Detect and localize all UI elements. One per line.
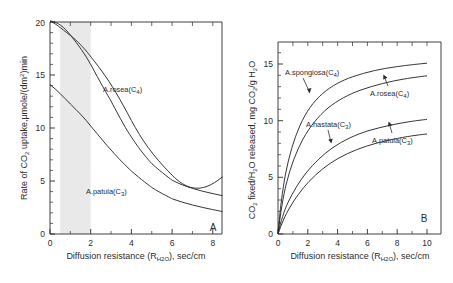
panel-b-curve-aspongiosa	[278, 63, 427, 234]
panel-b-label-aspongiosa: A.spongiosa(C4)	[285, 68, 339, 78]
panel-b-curve-arosea-b	[278, 76, 427, 234]
panel-a-xlabel: Diffusion resistance (RH2O), sec/cm	[66, 251, 205, 262]
panel-b-ylabel-p7: /g H	[247, 71, 257, 88]
panel-b-ytick-10: 10	[264, 116, 274, 126]
panel-b-ylabel-p3: fixed/H	[247, 172, 257, 203]
panel-b-label-arosea-b-main: A.rosea(C	[370, 89, 404, 98]
panel-a-xtick-8: 8	[210, 238, 215, 248]
panel-a-label-apatula: A.patula(C3)	[86, 187, 127, 197]
panel-b-xtick-6: 6	[365, 238, 370, 248]
panel-b-ylabel-p1: CO	[247, 206, 257, 220]
panel-b: 0 5 10 15 0 2 4 6 8 10 Diffusion resista…	[247, 42, 441, 262]
panel-a-ytick-10: 10	[36, 123, 46, 133]
panel-a-ytick-20: 20	[36, 18, 46, 28]
panel-b-label-ahastata-main: A.hastata(C	[306, 120, 346, 129]
panel-b-label-apatula-b-end: )	[410, 136, 412, 145]
panel-a-shaded-band	[60, 22, 90, 234]
panel-b-xtick-8: 8	[395, 238, 400, 248]
panel-b-xtick-10: 10	[422, 238, 432, 248]
panel-a-label-arosea-end: )	[140, 85, 142, 94]
panel-a-ylabel: Rate of CO2 uptake,μmole/(dm2)min	[19, 56, 30, 200]
panel-b-top-ticks	[293, 42, 427, 46]
panel-b-curve-apatula-b	[278, 134, 427, 234]
panel-b-label-arosea-b-end: )	[407, 89, 409, 98]
panel-b-label-ahastata-end: )	[348, 120, 350, 129]
panel-a-ylabel-p3: uptake,	[19, 120, 29, 152]
panel-b-ylabel-p5: O released, mg CO	[247, 91, 257, 169]
panel-b-label-apatula-b: A.patula(C3)	[372, 136, 413, 146]
panel-a-ylabel-p1: Rate of CO	[19, 155, 29, 200]
panel-b-y-minor-ticks	[278, 53, 281, 223]
panel-a-letter: A	[210, 222, 217, 233]
panel-a-xlabel-main1: Diffusion resistance (R	[66, 251, 157, 261]
panel-b-label-aspongiosa-end: )	[337, 68, 339, 77]
panel-a-xtick-4: 4	[129, 238, 134, 248]
panel-a-ylabel-p6: )min	[19, 56, 29, 74]
panel-a-label-arosea: A.rosea(C4)	[103, 85, 142, 95]
panel-a-xtick-2: 2	[88, 238, 93, 248]
panel-b-ylabel: CO2 fixed/H2O released, mg CO2/g H2O	[247, 61, 258, 219]
panel-a-label-arosea-main: A.rosea(C	[103, 85, 137, 94]
panel-a-ylabel-p4: μmole/(dm	[19, 77, 29, 120]
panel-a-top-ticks	[70, 22, 212, 26]
panel-a-ytick-5: 5	[40, 176, 45, 186]
panel-b-xlabel-main2: ), sec/cm	[393, 251, 430, 261]
panel-a-ytick-15: 15	[36, 70, 46, 80]
panel-a: 0 5 10 15 20 0 2 4 6 8 Diffusion resista…	[19, 18, 223, 262]
figure-svg: 0 5 10 15 20 0 2 4 6 8 Diffusion resista…	[0, 0, 453, 283]
panel-b-label-ahastata: A.hastata(C3)	[306, 120, 351, 130]
panel-b-ytick-15: 15	[264, 59, 274, 69]
panel-b-letter: B	[421, 213, 428, 224]
panel-a-xtick-6: 6	[170, 238, 175, 248]
panel-b-xtick-2: 2	[305, 238, 310, 248]
figure-container: 0 5 10 15 20 0 2 4 6 8 Diffusion resista…	[0, 0, 453, 283]
panel-b-ytick-5: 5	[268, 172, 273, 182]
panel-b-ylabel-p9: O	[247, 61, 257, 68]
panel-b-xlabel-main1: Diffusion resistance (R	[290, 251, 381, 261]
panel-a-label-apatula-main: A.patula(C	[86, 187, 122, 196]
panel-a-ytick-0: 0	[40, 229, 45, 239]
panel-a-xtick-0: 0	[48, 238, 53, 248]
panel-b-label-aspongiosa-main: A.spongiosa(C	[285, 68, 334, 77]
panel-b-arrowhead-apatula-b	[388, 122, 392, 127]
panel-b-label-arosea-b: A.rosea(C4)	[370, 89, 409, 99]
panel-b-arrowhead-aspongiosa	[307, 88, 311, 93]
panel-b-xlabel: Diffusion resistance (RH2O), sec/cm	[290, 251, 429, 262]
panel-a-xlabel-main2: ), sec/cm	[169, 251, 206, 261]
panel-b-ytick-0: 0	[268, 229, 273, 239]
panel-b-arrowhead-ahastata	[328, 139, 332, 144]
panel-b-xtick-0: 0	[276, 238, 281, 248]
panel-b-xtick-4: 4	[335, 238, 340, 248]
panel-b-label-apatula-b-main: A.patula(C	[372, 136, 408, 145]
panel-a-label-apatula-end: )	[124, 187, 126, 196]
